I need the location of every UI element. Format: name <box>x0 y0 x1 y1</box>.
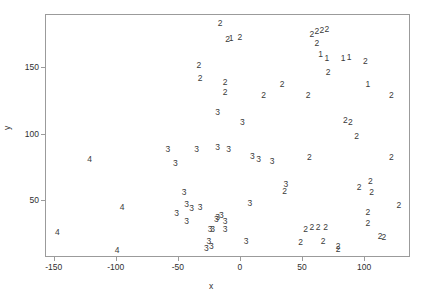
data-point: 3 <box>284 180 289 189</box>
data-point: 3 <box>210 225 215 234</box>
data-point: 4 <box>115 246 120 255</box>
data-point: 3 <box>174 209 179 218</box>
data-point: 2 <box>326 68 331 77</box>
data-point: 2 <box>223 88 228 97</box>
data-point: 1 <box>324 54 329 63</box>
x-tick-label: 50 <box>297 263 306 272</box>
data-point: 3 <box>166 145 171 154</box>
data-point: 2 <box>310 222 315 231</box>
data-point: 2 <box>225 35 230 44</box>
data-point: 2 <box>369 188 374 197</box>
data-point: 3 <box>189 204 194 213</box>
x-tick-mark <box>302 257 303 261</box>
y-tick-mark <box>41 200 45 201</box>
data-point: 3 <box>214 214 219 223</box>
data-point: 2 <box>365 218 370 227</box>
data-point: 2 <box>303 225 308 234</box>
data-point: 3 <box>244 237 249 246</box>
data-point: 3 <box>204 243 209 252</box>
data-point: 3 <box>182 188 187 197</box>
data-point: 2 <box>389 91 394 100</box>
data-point: 2 <box>389 153 394 162</box>
data-point: 3 <box>250 152 255 161</box>
data-point: 2 <box>323 222 328 231</box>
y-tick-label: 50 <box>15 195 39 204</box>
y-axis-label: y <box>2 126 12 130</box>
y-tick-label: 150 <box>15 63 39 72</box>
y-tick-mark <box>41 67 45 68</box>
data-point: 3 <box>256 154 261 163</box>
data-point: 2 <box>365 208 370 217</box>
data-point: 3 <box>223 225 228 234</box>
data-point: 3 <box>184 217 189 226</box>
data-point: 3 <box>270 157 275 166</box>
y-tick-mark <box>41 134 45 135</box>
data-point: 3 <box>215 143 220 152</box>
data-point: 2 <box>357 182 362 191</box>
data-point: 2 <box>198 73 203 82</box>
x-tick-mark <box>240 257 241 261</box>
data-point: 2 <box>315 39 320 48</box>
data-point: 3 <box>247 198 252 207</box>
data-point: 2 <box>238 32 243 41</box>
data-point: 2 <box>306 91 311 100</box>
data-point: 2 <box>223 77 228 86</box>
data-point: 1 <box>318 50 323 59</box>
data-point: 2 <box>218 19 223 28</box>
data-point: 1 <box>347 52 352 61</box>
x-tick-label: 0 <box>238 263 243 272</box>
data-point: 2 <box>336 245 341 254</box>
data-point: 2 <box>307 153 312 162</box>
scatter-plot-figure: 1111112222222222222222222222222222222222… <box>0 0 422 298</box>
data-point: 4 <box>120 202 125 211</box>
data-point: 4 <box>87 154 92 163</box>
data-point: 3 <box>209 242 214 251</box>
x-tick-label: 100 <box>357 263 371 272</box>
data-point: 2 <box>316 222 321 231</box>
x-axis-label: x <box>0 281 422 291</box>
data-point: 2 <box>197 60 202 69</box>
x-tick-label: -50 <box>172 263 184 272</box>
data-point: 3 <box>173 158 178 167</box>
y-tick-label: 100 <box>15 129 39 138</box>
data-point: 3 <box>215 108 220 117</box>
data-point: 1 <box>341 54 346 63</box>
data-point: 2 <box>382 233 387 242</box>
data-point: 2 <box>324 24 329 33</box>
x-tick-label: -100 <box>107 263 124 272</box>
data-point: 2 <box>354 132 359 141</box>
data-point: 2 <box>363 56 368 65</box>
data-point: 2 <box>261 91 266 100</box>
data-point: 2 <box>368 177 373 186</box>
data-point: 2 <box>396 201 401 210</box>
x-tick-mark <box>54 257 55 261</box>
data-point: 3 <box>194 145 199 154</box>
data-point: 2 <box>298 238 303 247</box>
data-point: 2 <box>348 117 353 126</box>
x-tick-label: -150 <box>45 263 62 272</box>
data-point: 2 <box>321 237 326 246</box>
data-point: 3 <box>198 202 203 211</box>
x-tick-mark <box>178 257 179 261</box>
data-point: 1 <box>365 80 370 89</box>
data-point: 3 <box>240 117 245 126</box>
x-tick-mark <box>116 257 117 261</box>
x-tick-mark <box>364 257 365 261</box>
data-point: 3 <box>226 145 231 154</box>
data-point: 2 <box>280 80 285 89</box>
data-point: 4 <box>55 228 60 237</box>
